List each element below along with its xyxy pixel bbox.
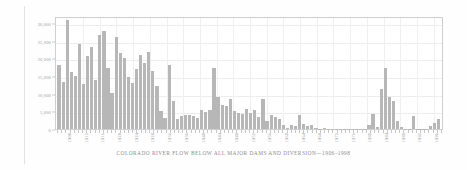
x-tick-mark [412,130,413,133]
x-tick-mark [157,130,158,133]
bar [192,116,195,129]
x-tick-label: 1972 [334,133,339,142]
x-tick-mark [90,130,91,133]
bar [420,129,423,130]
bar [208,110,211,129]
x-tick-mark [199,130,200,133]
bar [78,44,81,129]
bar [274,117,277,129]
bar [225,106,228,129]
x-tick-label: 1992 [417,133,422,142]
x-tick-mark [395,130,396,133]
bar [70,72,73,129]
bar [241,114,244,129]
x-tick-mark [228,130,229,133]
x-tick-mark [374,130,375,133]
bar [184,115,187,129]
bar [216,97,219,129]
chart-figure: 05,00010,00015,00020,00025,00030,000 1,0… [0,0,467,170]
x-tick-mark [357,130,358,133]
bar [380,89,383,129]
x-tick-mark [191,130,192,133]
bar [257,117,260,129]
x-tick-mark [278,130,279,133]
bar [249,113,252,129]
bar [359,129,362,130]
bar [392,101,395,129]
bar [327,129,330,130]
bar [367,125,370,129]
y-tick-label: 5,000 [40,110,51,115]
bar [159,111,162,129]
x-tick-label: 1932 [167,133,172,142]
x-tick-label: 1936 [184,133,189,142]
bar [270,115,273,129]
bar [127,77,130,129]
bar [245,109,248,129]
bar [347,129,350,130]
y-tick-label: 10,000 [38,92,51,97]
bar [323,128,326,129]
x-tick-mark [378,130,379,133]
bar [200,110,203,129]
x-tick-label: 1928 [150,133,155,142]
bar [437,119,440,129]
x-tick-label: 1960 [284,133,289,142]
bar [90,47,93,129]
bar [123,58,126,129]
x-tick-mark [195,130,196,133]
x-tick-mark [241,130,242,133]
x-tick-mark [107,130,108,133]
x-tick-mark [224,130,225,133]
bar [261,99,264,129]
x-tick-mark [262,130,263,133]
x-tick-mark [391,130,392,133]
bar [212,68,215,129]
bar [115,37,118,129]
x-tick-mark [95,130,96,133]
x-tick-mark [111,130,112,133]
x-tick-mark [312,130,313,133]
bar [294,126,297,129]
bar [376,127,379,129]
bar [86,56,89,129]
bar [429,126,432,129]
x-tick-mark [211,130,212,133]
y-axis: 05,00010,00015,00020,00025,00030,000 [0,17,55,130]
x-tick-mark [428,130,429,133]
bar [176,119,179,129]
x-tick-mark [61,130,62,133]
bar [282,125,285,129]
bar [310,125,313,129]
bar [168,65,171,129]
x-tick-mark [324,130,325,133]
x-tick-mark [124,130,125,133]
bar [351,129,354,130]
bar [229,99,232,129]
x-tick-mark [328,130,329,133]
bar [412,116,415,129]
x-tick-label: 1940 [201,133,206,142]
bar [331,129,334,130]
x-tick-mark [249,130,250,133]
bar [135,69,138,129]
bar [343,129,346,130]
x-tick-mark [295,130,296,133]
x-tick-mark [128,130,129,133]
y-tick-label: 0 [49,128,51,133]
bar [306,126,309,129]
bar [180,116,183,129]
bar [98,35,101,129]
x-tick-label: 1980 [367,133,372,142]
bar [94,80,97,129]
x-tick-label: 1920 [117,133,122,142]
x-tick-label: 1968 [317,133,322,142]
bar [74,76,77,129]
bar [278,119,281,129]
bar-series [56,18,442,129]
bar [363,129,366,130]
x-tick-label: 1976 [351,133,356,142]
x-tick-label: 1948 [234,133,239,142]
bar [139,55,142,129]
x-tick-mark [408,130,409,133]
